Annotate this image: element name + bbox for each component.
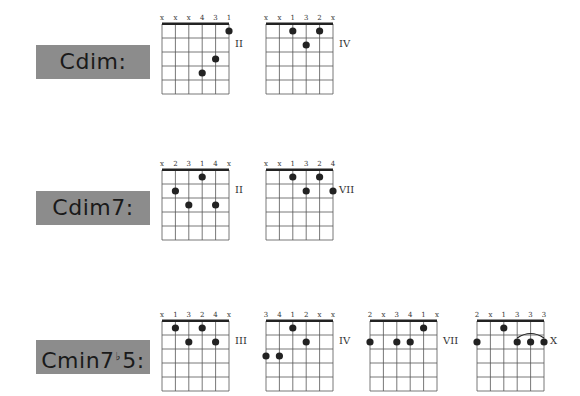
finger-number: 3	[304, 14, 308, 22]
fret-position-label: VII	[339, 184, 354, 195]
fret-position-label: III	[235, 335, 247, 346]
finger-number: 1	[502, 311, 506, 319]
finger-dot	[303, 187, 310, 194]
finger-number: 3	[213, 14, 217, 22]
fretboard-grid: 2x1333	[477, 309, 580, 396]
finger-number: 1	[227, 14, 231, 22]
chord-diagram: x1324xIII	[162, 309, 272, 396]
finger-number: 2	[317, 160, 321, 168]
finger-dot	[199, 324, 206, 331]
muted-string-marker: x	[160, 14, 164, 22]
chord-name-tail: 5:	[122, 348, 144, 373]
finger-dot	[329, 187, 336, 194]
finger-number: 1	[291, 160, 295, 168]
fret-position-label: IV	[339, 335, 350, 346]
chord-diagram: 2x1333X	[477, 309, 580, 396]
muted-string-marker: x	[173, 14, 177, 22]
finger-dot	[289, 27, 296, 34]
finger-dot	[172, 187, 179, 194]
finger-dot	[185, 201, 192, 208]
muted-string-marker: x	[277, 14, 281, 22]
finger-dot	[393, 338, 400, 345]
chord-diagram: x2314xII	[162, 158, 272, 258]
finger-dot	[199, 69, 206, 76]
fretboard-grid: xx132x	[266, 12, 376, 112]
finger-number: 2	[317, 14, 321, 22]
fret-position-label: IV	[339, 38, 350, 49]
finger-dot	[199, 173, 206, 180]
finger-number: 4	[331, 160, 336, 168]
finger-dot	[276, 352, 283, 359]
finger-number: 4	[213, 160, 218, 168]
chord-label-cdim7: Cdim7:	[36, 191, 150, 225]
finger-number: 4	[200, 14, 205, 22]
finger-dot	[420, 324, 427, 331]
finger-dot	[540, 338, 547, 345]
fret-position-label: X	[550, 335, 557, 346]
finger-dot	[473, 338, 480, 345]
muted-string-marker: x	[318, 311, 322, 319]
chord-label-cdim: Cdim:	[36, 45, 150, 79]
chord-name: Cdim7:	[52, 195, 133, 220]
finger-number: 3	[187, 311, 191, 319]
chord-diagram: 3412xxIV	[266, 309, 376, 396]
finger-dot	[212, 338, 219, 345]
finger-dot	[212, 55, 219, 62]
finger-number: 2	[475, 311, 479, 319]
finger-dot	[289, 324, 296, 331]
fret-position-label: VII	[443, 335, 458, 346]
finger-dot	[316, 173, 323, 180]
finger-dot	[303, 41, 310, 48]
muted-string-marker: x	[381, 311, 385, 319]
finger-number: 1	[291, 14, 295, 22]
finger-dot	[514, 338, 521, 345]
fretboard-grid: xx1324	[266, 158, 376, 258]
fret-position-label: II	[235, 38, 243, 49]
finger-number: 3	[264, 311, 268, 319]
finger-number: 2	[173, 160, 177, 168]
muted-string-marker: x	[264, 160, 268, 168]
muted-string-marker: x	[160, 311, 164, 319]
muted-string-marker: x	[227, 160, 231, 168]
fretboard-grid: x1324x	[162, 309, 272, 396]
finger-dot	[527, 338, 534, 345]
finger-number: 4	[408, 311, 413, 319]
muted-string-marker: x	[435, 311, 439, 319]
fretboard-grid: xxx431	[162, 12, 272, 112]
finger-dot	[316, 27, 323, 34]
finger-dot	[289, 173, 296, 180]
finger-dot	[225, 27, 232, 34]
muted-string-marker: x	[331, 14, 335, 22]
muted-string-marker: x	[160, 160, 164, 168]
finger-number: 3	[542, 311, 546, 319]
finger-number: 1	[291, 311, 295, 319]
chord-diagram: xx132xIV	[266, 12, 376, 112]
finger-number: 3	[304, 160, 308, 168]
muted-string-marker: x	[488, 311, 492, 319]
finger-dot	[303, 338, 310, 345]
muted-string-marker: x	[331, 311, 335, 319]
finger-number: 3	[515, 311, 519, 319]
finger-dot	[212, 201, 219, 208]
fretboard-grid: 3412xx	[266, 309, 376, 396]
fret-position-label: II	[235, 184, 243, 195]
fretboard-grid: 2x341x	[370, 309, 480, 396]
finger-dot	[262, 352, 269, 359]
finger-number: 1	[421, 311, 425, 319]
finger-number: 3	[187, 160, 191, 168]
flat-sign: ♭	[116, 350, 122, 363]
finger-number: 2	[200, 311, 204, 319]
chord-name-main: Cmin7	[41, 348, 114, 373]
finger-dot	[500, 324, 507, 331]
chord-diagram: 2x341xVII	[370, 309, 480, 396]
finger-dot	[172, 324, 179, 331]
finger-number: 2	[368, 311, 372, 319]
fretboard-grid: x2314x	[162, 158, 272, 258]
chord-label-cmin7b5: Cmin7♭5:	[36, 340, 150, 374]
finger-number: 3	[528, 311, 532, 319]
finger-number: 2	[304, 311, 308, 319]
chord-diagram: xxx431II	[162, 12, 272, 112]
finger-dot	[366, 338, 373, 345]
finger-number: 1	[200, 160, 204, 168]
finger-dot	[185, 338, 192, 345]
